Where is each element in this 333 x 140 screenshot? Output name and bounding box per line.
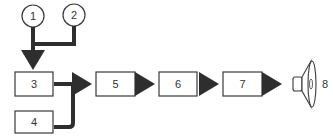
block-6-label: 6 [175, 78, 181, 90]
connector-2-to-3 [33, 26, 74, 44]
speaker-icon [293, 61, 316, 107]
connector-4-to-5 [54, 84, 73, 127]
block-3: 3 [15, 72, 53, 96]
block-5-label: 5 [112, 78, 118, 90]
block-4-label: 4 [31, 116, 37, 128]
block-7: 7 [223, 72, 262, 96]
block-3-label: 3 [31, 78, 37, 90]
input-node-2: 2 [63, 4, 85, 26]
block-7-label: 7 [239, 78, 245, 90]
input-node-2-label: 2 [71, 9, 77, 21]
block-4: 4 [15, 111, 53, 133]
block-5: 5 [96, 72, 135, 96]
output-node-8-label: 8 [322, 78, 328, 90]
block-6: 6 [159, 72, 197, 96]
block-diagram: 1 2 3 4 5 6 7 [0, 0, 333, 140]
input-node-1-label: 1 [30, 10, 36, 22]
input-node-1: 1 [22, 5, 44, 27]
